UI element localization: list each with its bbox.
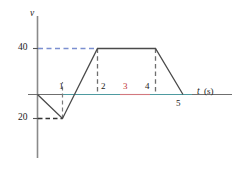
y-tick-label-20: 20: [18, 113, 28, 123]
t-axis-unit-label: (s): [204, 87, 214, 96]
x-tick-label-3: 3: [123, 82, 128, 91]
v-axis-label: v: [30, 9, 34, 19]
velocity-time-chart: v 40 20 1 2 3 4 5 t (s): [0, 0, 239, 176]
y-tick-label-40: 40: [18, 43, 28, 53]
x-tick-label-5: 5: [176, 99, 181, 108]
x-tick-label-1: 1: [59, 82, 64, 91]
t-axis-label: t: [197, 87, 200, 97]
x-tick-label-2: 2: [101, 82, 106, 91]
x-tick-label-4: 4: [145, 82, 150, 91]
